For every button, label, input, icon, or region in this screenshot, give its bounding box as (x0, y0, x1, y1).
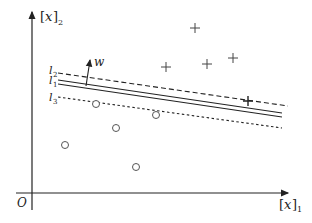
plus-point (161, 62, 171, 72)
positive-points (161, 23, 253, 106)
circle-point (133, 164, 140, 171)
normal-vector-arrow (86, 60, 90, 86)
svg-text:1: 1 (297, 205, 302, 214)
svg-text:1: 1 (53, 81, 57, 89)
plus-point (228, 53, 238, 63)
svg-text:x: x (45, 9, 53, 24)
plus-point (202, 59, 212, 69)
svg-text:2: 2 (53, 71, 57, 79)
svg-text:3: 3 (53, 98, 57, 106)
x-axis-label: [ x ] 1 (279, 197, 302, 214)
circle-point (62, 142, 69, 149)
svm-margin-diagram: [ x ] 2 [ x ] 1 O l 2 l 1 l 3 w (0, 0, 312, 223)
circle-point (93, 101, 100, 108)
normal-vector-label: w (94, 55, 105, 69)
circle-point (153, 112, 160, 119)
origin-label: O (17, 196, 27, 210)
svg-text:x: x (284, 197, 292, 212)
circle-point (113, 125, 120, 132)
plus-point (190, 23, 200, 33)
plus-point (243, 96, 253, 106)
svg-text:2: 2 (58, 18, 63, 27)
label-l3: l 3 (49, 91, 57, 106)
negative-points (62, 101, 160, 171)
y-axis-label: [ x ] 2 (40, 9, 63, 27)
